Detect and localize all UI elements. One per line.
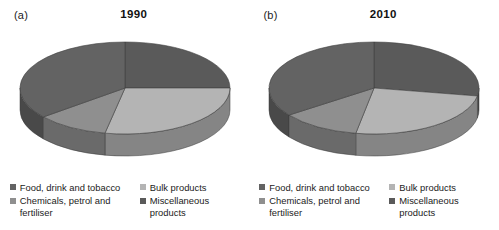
legend-label-miscellaneous: Miscellaneous products: [150, 195, 240, 218]
chart-panel-a: (a) 1990 Food, drink and tobacco Bulk pr…: [0, 0, 250, 230]
legend-item-food-drink-tobacco: Food, drink and tobacco: [259, 182, 383, 193]
legend-label-food: Food, drink and tobacco: [20, 182, 121, 193]
legend-swatch-bulk-icon: [389, 184, 395, 190]
legend-swatch-bulk-icon: [140, 184, 146, 190]
legend-item-bulk-products: Bulk products: [140, 182, 240, 193]
legend-item-chemicals: Chemicals, petrol and fertiliser: [259, 195, 383, 218]
pie-chart-figure: (a) 1990 Food, drink and tobacco Bulk pr…: [0, 0, 499, 230]
legend-item-chemicals: Chemicals, petrol and fertiliser: [10, 195, 134, 218]
legend-swatch-food-icon: [10, 184, 16, 190]
legend-label-food: Food, drink and tobacco: [269, 182, 370, 193]
pie-geometry-b: [269, 42, 479, 156]
legend-swatch-chemicals-icon: [259, 198, 265, 204]
legend-item-miscellaneous: Miscellaneous products: [389, 195, 489, 218]
legend-swatch-food-icon: [259, 184, 265, 190]
chart-panel-b: (b) 2010 Food, drink and tobacco Bulk pr…: [250, 0, 499, 230]
legend-swatch-misc-icon: [389, 198, 395, 204]
panel-title-b: 2010: [250, 8, 499, 20]
pie-svg-a: [16, 28, 234, 160]
legend-b: Food, drink and tobacco Bulk products Ch…: [250, 182, 499, 218]
panel-title-a: 1990: [0, 8, 250, 20]
legend-label-miscellaneous: Miscellaneous products: [399, 195, 489, 218]
pie-geometry-a: [20, 42, 230, 156]
legend-item-food-drink-tobacco: Food, drink and tobacco: [10, 182, 134, 193]
legend-label-bulk: Bulk products: [150, 182, 207, 193]
legend-item-bulk-products: Bulk products: [389, 182, 489, 193]
legend-item-miscellaneous: Miscellaneous products: [140, 195, 240, 218]
legend-label-chemicals: Chemicals, petrol and fertiliser: [269, 195, 383, 218]
pie-stage-a: [16, 28, 234, 160]
legend-label-bulk: Bulk products: [399, 182, 456, 193]
pie-svg-b: [265, 28, 483, 160]
legend-swatch-misc-icon: [140, 198, 146, 204]
pie-stage-b: [265, 28, 483, 160]
pie-chart-a: [16, 28, 234, 160]
pie-chart-b: [265, 28, 483, 160]
legend-swatch-chemicals-icon: [10, 198, 16, 204]
legend-label-chemicals: Chemicals, petrol and fertiliser: [20, 195, 134, 218]
legend-a: Food, drink and tobacco Bulk products Ch…: [0, 182, 250, 218]
